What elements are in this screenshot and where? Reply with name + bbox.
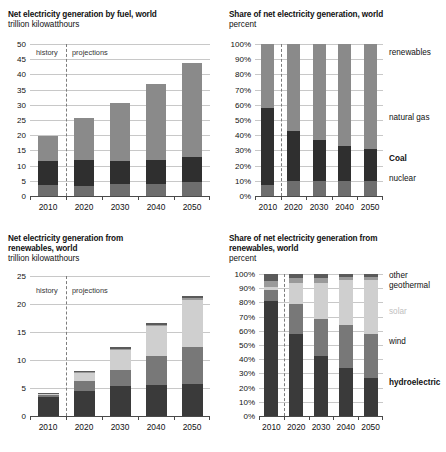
y-axis-tick-label: 0% (225, 412, 255, 421)
panel-subtitle: trillion kilowatthours (8, 20, 79, 30)
bar-segment-natural-gas-renewables (38, 136, 58, 161)
bar-segment-renewables (287, 44, 300, 97)
bar-2010 (38, 136, 58, 196)
x-axis-tick-mark (30, 416, 31, 420)
bar-2040 (338, 44, 351, 196)
plot-area: 0510152025303540455020102020203020402050… (30, 44, 210, 196)
bar-segment-solar (289, 283, 303, 304)
y-axis-tick-label: 25 (0, 116, 26, 125)
x-axis-line (255, 196, 383, 197)
panel-net-generation-from-renewables: Net electricity generation from renewabl… (0, 226, 223, 452)
panel-share-of-net-generation: Share of net electricity generation, wor… (223, 0, 446, 226)
y-axis-tick-label: 30 (0, 100, 26, 109)
x-axis-tick-mark (333, 416, 334, 420)
bar-segment-coal (364, 149, 377, 181)
bar-2020 (74, 371, 95, 416)
annotation-history: history (36, 286, 58, 295)
bar-segment-wind (182, 347, 203, 385)
bar-2010 (264, 274, 278, 416)
bar-2020 (287, 44, 300, 196)
x-axis-tick-mark (357, 196, 358, 200)
bar-segment-hydroelectric (110, 386, 131, 416)
bar-segment-solar (74, 373, 95, 381)
bar-segment-coal (313, 140, 326, 181)
bar-segment-hydroelectric (314, 356, 328, 416)
x-axis-tick-label: 2030 (102, 422, 138, 432)
bar-segment-nuclear (287, 181, 300, 196)
bar-2040 (146, 84, 166, 196)
bar-2040 (146, 322, 167, 416)
y-axis-tick-label: 45 (0, 55, 26, 64)
x-axis-tick-label: 2020 (66, 422, 102, 432)
x-axis-tick-mark (209, 196, 210, 200)
bar-segment-natural-gas-renewables (182, 63, 202, 157)
bar-segment-solar (364, 280, 378, 334)
y-axis-tick-label: 10 (0, 161, 26, 170)
y-axis-tick-label: 30% (225, 369, 255, 378)
panel-title: Net electricity generation from renewabl… (8, 234, 208, 254)
x-axis-tick-label: 2050 (174, 422, 210, 432)
y-axis-tick-label: 90% (221, 55, 251, 64)
x-axis-tick-mark (382, 416, 383, 420)
y-axis-tick-label: 5 (0, 384, 26, 393)
bar-2020 (74, 118, 94, 196)
y-axis-tick-label: 50% (225, 341, 255, 350)
gridline (30, 44, 210, 45)
bar-2040 (339, 274, 353, 416)
bar-segment-nuclear (38, 185, 58, 196)
bar-2050 (182, 63, 202, 196)
legend-label-natural-gas: natural gas (389, 112, 430, 121)
legend-label-nuclear: nuclear (389, 173, 416, 182)
x-axis-tick-mark (174, 416, 175, 420)
y-axis-tick-label: 20 (0, 300, 26, 309)
bar-segment-coal (38, 161, 58, 185)
bar-segment-other (264, 274, 278, 281)
x-axis-tick-label: 2030 (309, 422, 334, 432)
bar-segment-hydroelectric (339, 368, 353, 416)
x-axis-tick-label: 2010 (30, 202, 66, 212)
x-axis-tick-mark (102, 416, 103, 420)
bar-segment-natural-gas-renewables (146, 84, 166, 160)
bar-segment-solar (339, 280, 353, 325)
y-axis-tick-label: 15 (0, 146, 26, 155)
history-projections-divider (281, 44, 282, 196)
panel-title: Net electricity generation by fuel, worl… (8, 10, 218, 20)
x-axis-line (30, 196, 210, 197)
x-axis-tick-mark (66, 416, 67, 420)
y-axis-tick-label: 0 (0, 192, 26, 201)
bar-segment-hydroelectric (364, 378, 378, 416)
bar-segment-nuclear (313, 181, 326, 196)
bar-segment-solar (146, 326, 167, 356)
legend-label-wind: wind (389, 336, 406, 345)
bar-2050 (364, 44, 377, 196)
x-axis-tick-mark (309, 416, 310, 420)
bar-2030 (313, 44, 326, 196)
bar-segment-nuclear (110, 184, 130, 196)
y-axis-tick-label: 50 (0, 40, 26, 49)
bar-segment-nuclear (261, 185, 274, 196)
x-axis-tick-label: 2030 (306, 202, 332, 212)
bar-segment-coal (110, 161, 130, 184)
bar-segment-hydroelectric (182, 384, 203, 416)
x-axis-tick-mark (102, 196, 103, 200)
bar-segment-wind (339, 325, 353, 368)
y-axis-tick-label: 10% (221, 176, 251, 185)
x-axis-tick-mark (306, 196, 307, 200)
y-axis-tick-label: 5 (0, 176, 26, 185)
bar-segment-natural-gas (287, 97, 300, 130)
bar-segment-renewables (261, 44, 274, 76)
bar-segment-natural-gas (313, 105, 326, 140)
annotation-projections: projections (72, 48, 108, 57)
legend-label-geothermal: geothermal (389, 281, 430, 290)
bar-2050 (182, 296, 203, 416)
x-axis-tick-label: 2020 (66, 202, 102, 212)
x-axis-tick-mark (209, 416, 210, 420)
x-axis-tick-label: 2040 (138, 202, 174, 212)
plot-area: 051015202520102020203020402050historypro… (30, 276, 210, 416)
panel-subtitle: percent (229, 254, 256, 264)
y-axis-tick-label: 70% (221, 85, 251, 94)
y-axis-tick-label: 20% (221, 161, 251, 170)
bar-segment-natural-gas (364, 112, 377, 148)
bar-segment-hydroelectric (74, 391, 95, 416)
bar-segment-hydroelectric (289, 334, 303, 416)
